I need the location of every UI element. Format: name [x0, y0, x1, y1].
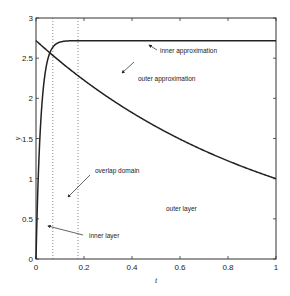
x-tick-label: 0.4	[126, 263, 138, 272]
inner-layer-label: inner layer	[89, 232, 120, 240]
outer-approximation-curve	[36, 41, 276, 179]
outer-approximation-arrow	[122, 62, 134, 73]
x-tick-label: 0	[34, 263, 39, 272]
y-tick-label: 1	[29, 175, 34, 184]
inner-approximation-label: inner approximation	[160, 47, 217, 55]
inner-approximation-arrow	[149, 45, 157, 50]
chart: 00.20.40.60.8100.511.522.53tyinner appro…	[0, 0, 290, 296]
inner-layer-arrow	[48, 226, 83, 235]
x-tick-label: 1	[274, 263, 279, 272]
y-tick-label: 2.5	[22, 54, 34, 63]
inner-approximation-curve	[36, 41, 276, 259]
outer-layer-label: outer layer	[166, 205, 198, 213]
y-tick-label: 2	[29, 94, 34, 103]
y-tick-label: 1.5	[22, 135, 34, 144]
x-tick-label: 0.6	[174, 263, 186, 272]
x-axis-label: t	[155, 276, 158, 285]
y-axis-label: y	[13, 136, 22, 141]
x-tick-label: 0.2	[78, 263, 90, 272]
y-tick-label: 3	[29, 14, 34, 23]
y-tick-label: 0.5	[22, 215, 34, 224]
x-tick-label: 0.8	[222, 263, 234, 272]
outer-approximation-label: outer approximation	[138, 75, 196, 83]
overlap-domain-arrow	[68, 175, 90, 197]
overlap-domain-label: overlap domain	[95, 167, 140, 175]
y-tick-label: 0	[29, 255, 34, 264]
plot-frame	[36, 18, 276, 259]
